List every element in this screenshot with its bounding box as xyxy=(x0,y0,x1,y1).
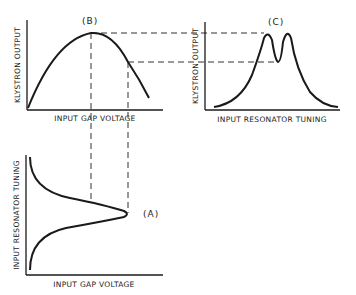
panel-b-tag: (B) xyxy=(82,16,98,26)
panel-c-curve xyxy=(214,34,338,107)
panel-a: (A) INPUT GAP VOLTAGE INPUT RESONATOR TU… xyxy=(12,155,163,289)
panel-a-curve xyxy=(30,157,127,270)
klystron-diagram: (B) INPUT GAP VOLTAGE KLYSTRON OUTPUT (C… xyxy=(0,0,356,295)
panel-c-tag: (C) xyxy=(268,17,284,27)
panel-b-ylabel: KLYSTRON OUTPUT xyxy=(13,27,22,103)
panel-a-xlabel: INPUT GAP VOLTAGE xyxy=(53,280,134,289)
panel-a-tag: (A) xyxy=(143,209,159,219)
panel-b: (B) INPUT GAP VOLTAGE KLYSTRON OUTPUT xyxy=(13,16,163,123)
panel-b-curve xyxy=(28,33,149,108)
panel-a-ylabel: INPUT RESONATOR TUNING xyxy=(12,160,21,270)
panel-c-xlabel: INPUT RESONATOR TUNING xyxy=(217,115,327,124)
panel-c-ylabel: KLYSTRON OUTPUT xyxy=(191,28,200,104)
panel-b-xlabel: INPUT GAP VOLTAGE xyxy=(54,114,135,123)
